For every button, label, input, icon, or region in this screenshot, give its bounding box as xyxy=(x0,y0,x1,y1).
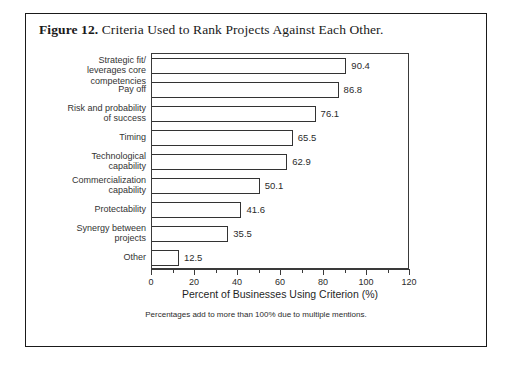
category-label-line: Strategic fit/ xyxy=(38,55,146,66)
bar xyxy=(152,154,287,170)
x-axis-major-tick xyxy=(323,269,324,275)
x-axis-tick-label: 20 xyxy=(189,277,199,287)
x-axis-minor-tick xyxy=(216,269,217,273)
bar-row: 62.9 xyxy=(152,150,408,174)
category-label: Synergy betweenprojects xyxy=(38,223,146,244)
category-label-line: Commercialization xyxy=(38,175,146,186)
bar-value-label: 90.4 xyxy=(346,58,370,74)
bar-row: 41.6 xyxy=(152,198,408,222)
bar-value-label: 41.6 xyxy=(241,202,265,218)
chart-plot-area: 90.486.876.165.562.950.141.635.512.5 xyxy=(151,53,409,269)
category-label-line: capability xyxy=(38,161,146,172)
bar-value-label: 86.8 xyxy=(339,82,363,98)
category-label: Strategic fit/leverages core competencie… xyxy=(38,55,146,87)
category-label: Commercializationcapability xyxy=(38,175,146,196)
x-axis-line: 020406080100120 xyxy=(151,269,409,270)
category-label: Timing xyxy=(38,132,146,143)
bar xyxy=(152,130,293,146)
figure-caption: Figure 12. Criteria Used to Rank Project… xyxy=(39,22,383,38)
category-label-line: Timing xyxy=(38,132,146,143)
x-axis-minor-tick xyxy=(173,269,174,273)
figure-number: Figure 12. xyxy=(39,22,98,37)
bar-row: 76.1 xyxy=(152,102,408,126)
category-label-line: projects xyxy=(38,233,146,244)
x-axis-major-tick xyxy=(151,269,152,275)
category-label: Pay off xyxy=(38,84,146,95)
category-label-line: Risk and probability xyxy=(38,103,146,114)
bar-value-label: 65.5 xyxy=(293,130,317,146)
x-axis-major-tick xyxy=(366,269,367,275)
x-axis-major-tick xyxy=(409,269,410,275)
x-axis-tick-label: 80 xyxy=(318,277,328,287)
bar-value-label: 76.1 xyxy=(316,106,340,122)
x-axis-major-tick xyxy=(237,269,238,275)
bar xyxy=(152,178,260,194)
x-axis-minor-tick xyxy=(259,269,260,273)
category-label-line: capability xyxy=(38,185,146,196)
bar-value-label: 12.5 xyxy=(179,250,203,266)
bar xyxy=(152,226,228,242)
x-axis-tick-label: 100 xyxy=(358,277,373,287)
bar xyxy=(152,58,346,74)
category-label: Other xyxy=(38,252,146,263)
bar-row: 12.5 xyxy=(152,246,408,270)
x-axis-tick-label: 40 xyxy=(232,277,242,287)
bar-row: 90.4 xyxy=(152,54,408,78)
category-label-line: Synergy between xyxy=(38,223,146,234)
x-axis-tick-label: 0 xyxy=(148,277,153,287)
category-label-line: of success xyxy=(38,113,146,124)
category-label: Risk and probabilityof success xyxy=(38,103,146,124)
bar-row: 86.8 xyxy=(152,78,408,102)
category-label-line: Other xyxy=(38,252,146,263)
figure-frame: Figure 12. Criteria Used to Rank Project… xyxy=(25,13,487,347)
x-axis-tick-label: 60 xyxy=(275,277,285,287)
bar-row: 35.5 xyxy=(152,222,408,246)
category-label-line: Protectability xyxy=(38,204,146,215)
bar-value-label: 35.5 xyxy=(228,226,252,242)
bar-row: 65.5 xyxy=(152,126,408,150)
category-label: Technologicalcapability xyxy=(38,151,146,172)
bar xyxy=(152,106,316,122)
x-axis-tick-label: 120 xyxy=(401,277,416,287)
category-label-line: Technological xyxy=(38,151,146,162)
x-axis-minor-tick xyxy=(388,269,389,273)
figure-caption-text: Criteria Used to Rank Projects Against E… xyxy=(102,22,384,37)
bar-value-label: 50.1 xyxy=(260,178,284,194)
category-label-line: Pay off xyxy=(38,84,146,95)
bar-value-label: 62.9 xyxy=(287,154,311,170)
x-axis-title: Percent of Businesses Using Criterion (%… xyxy=(151,288,409,300)
bar xyxy=(152,202,241,218)
x-axis-minor-tick xyxy=(345,269,346,273)
bar xyxy=(152,250,179,266)
bar xyxy=(152,82,339,98)
x-axis-major-tick xyxy=(280,269,281,275)
x-axis-major-tick xyxy=(194,269,195,275)
x-axis-minor-tick xyxy=(302,269,303,273)
category-label: Protectability xyxy=(38,204,146,215)
bar-row: 50.1 xyxy=(152,174,408,198)
chart-footnote: Percentages add to more than 100% due to… xyxy=(26,310,486,319)
